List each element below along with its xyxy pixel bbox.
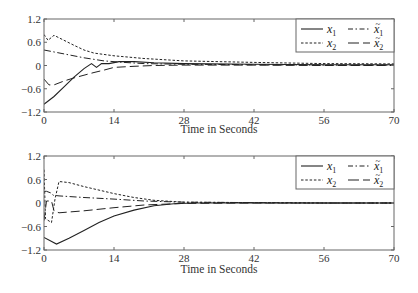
y-tick-label: 0	[36, 197, 42, 209]
line-x1	[44, 62, 394, 105]
y-tick-label: 0	[36, 60, 42, 72]
legend: x1x2x1~x2~	[296, 19, 394, 52]
bottom-plot: 014284256701.20.60−0.6−1.2Time in Second…	[21, 150, 400, 275]
x-tick-label: 70	[389, 252, 401, 264]
x-axis-label: Time in Seconds	[181, 123, 258, 135]
tilde-mark: ~	[376, 170, 381, 180]
x-tick-label: 0	[41, 114, 47, 126]
legend: x1x2x1~x2~	[296, 156, 394, 189]
y-tick-label: −0.6	[21, 83, 41, 95]
line-x1	[44, 203, 394, 244]
line-x1-tilde	[44, 191, 394, 203]
y-tick-label: 0.6	[27, 174, 41, 186]
x-tick-label: 14	[109, 114, 121, 126]
tilde-mark: ~	[376, 156, 381, 166]
x-axis-label: Time in Seconds	[181, 263, 258, 275]
y-tick-label: 0.6	[27, 36, 41, 48]
y-tick-label: −0.6	[21, 221, 41, 233]
line-x2-tilde	[44, 201, 394, 221]
y-tick-label: 1.2	[27, 150, 41, 162]
x-tick-label: 56	[319, 252, 331, 264]
tilde-mark: ~	[376, 33, 381, 43]
x-tick-label: 70	[389, 114, 401, 126]
x-tick-label: 14	[109, 252, 121, 264]
y-tick-label: −1.2	[21, 244, 41, 256]
x-tick-label: 0	[41, 252, 47, 264]
figure: 014284256701.20.60−0.6−1.2Time in Second…	[0, 0, 418, 293]
top-plot: 014284256701.20.60−0.6−1.2Time in Second…	[21, 13, 400, 135]
y-tick-label: 1.2	[27, 13, 41, 25]
x-tick-label: 56	[319, 114, 331, 126]
tilde-mark: ~	[376, 19, 381, 29]
y-tick-label: −1.2	[21, 106, 41, 118]
